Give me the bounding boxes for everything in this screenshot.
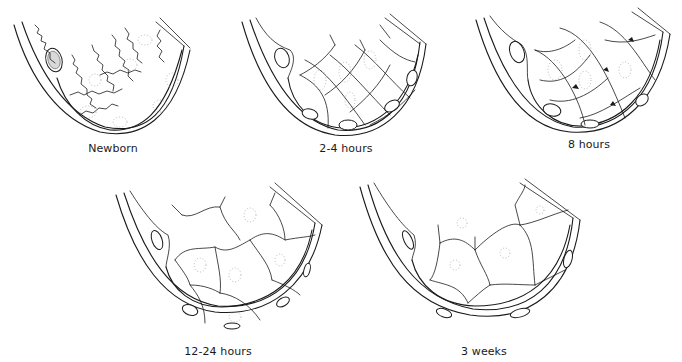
- panel-12-24-hours: [110, 175, 340, 350]
- alveolus-illustration-3-weeks: [340, 175, 600, 350]
- alveolus-illustration-12-24-hours: [110, 175, 340, 350]
- caption-12-24-hours: 12-24 hours: [184, 345, 252, 358]
- caption-3-weeks: 3 weeks: [461, 345, 507, 358]
- caption-8-hours: 8 hours: [568, 138, 610, 151]
- caption-newborn: Newborn: [88, 142, 138, 155]
- panel-3-weeks: [340, 175, 600, 350]
- caption-2-4-hours: 2-4 hours: [319, 142, 372, 155]
